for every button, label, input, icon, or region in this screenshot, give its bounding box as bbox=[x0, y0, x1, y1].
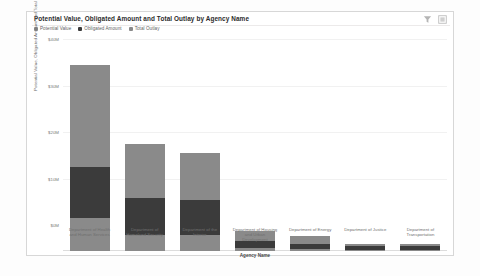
bar-column[interactable] bbox=[232, 39, 277, 251]
bar-segment[interactable] bbox=[180, 153, 220, 200]
card-header-icons bbox=[423, 15, 447, 24]
bar-column[interactable] bbox=[343, 39, 388, 251]
screenshot-root: Potential Value, Obligated Amount and To… bbox=[0, 0, 480, 276]
y-axis-tick-label: $10M bbox=[48, 176, 59, 181]
filter-funnel-icon[interactable] bbox=[423, 15, 432, 24]
legend-item-potential-value[interactable]: Potential Value bbox=[34, 26, 71, 31]
focus-mode-icon[interactable] bbox=[438, 15, 447, 24]
y-axis-ticks: $0M$10M$20M$30M$40M bbox=[41, 39, 61, 225]
chart-card[interactable]: Potential Value, Obligated Amount and To… bbox=[26, 11, 454, 256]
y-axis-tick-label: $20M bbox=[48, 130, 59, 135]
legend-swatch-obligated-amount bbox=[78, 27, 82, 31]
y-axis-tick-label: $0M bbox=[50, 223, 59, 228]
legend-swatch-total-outlay bbox=[129, 27, 133, 31]
legend-label-potential-value: Potential Value bbox=[40, 26, 71, 31]
bar-segment[interactable] bbox=[70, 65, 110, 167]
bar-column[interactable] bbox=[67, 39, 112, 251]
plot-area: Potential Value, Obligated Amount and To… bbox=[63, 39, 447, 251]
chart-title: Potential Value, Obligated Amount and To… bbox=[34, 15, 249, 22]
legend-label-total-outlay: Total Outlay bbox=[135, 26, 160, 31]
bar-segment[interactable] bbox=[70, 167, 110, 218]
y-axis-title: Potential Value, Obligated Amount and To… bbox=[33, 0, 38, 91]
legend-label-obligated-amount: Obligated Amount bbox=[84, 26, 121, 31]
chart-card-header: Potential Value, Obligated Amount and To… bbox=[27, 12, 453, 38]
bar-column[interactable] bbox=[122, 39, 167, 251]
bar-series-container bbox=[63, 39, 447, 251]
bar-column[interactable] bbox=[177, 39, 222, 251]
bar-segment[interactable] bbox=[125, 144, 165, 197]
y-axis-tick-label: $40M bbox=[48, 37, 59, 42]
x-axis-title: Agency Name bbox=[63, 253, 447, 258]
bar-stack[interactable] bbox=[70, 65, 110, 251]
legend-item-total-outlay[interactable]: Total Outlay bbox=[129, 26, 160, 31]
bar-column[interactable] bbox=[398, 39, 443, 251]
y-axis-tick-label: $30M bbox=[48, 83, 59, 88]
bar-column[interactable] bbox=[288, 39, 333, 251]
legend-item-obligated-amount[interactable]: Obligated Amount bbox=[78, 26, 121, 31]
chart-legend: Potential Value Obligated Amount Total O… bbox=[34, 26, 160, 31]
